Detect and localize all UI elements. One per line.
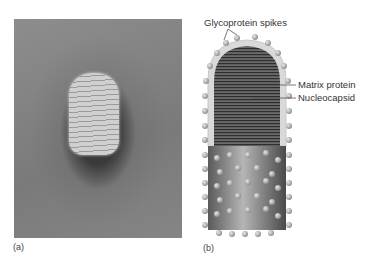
virion-diagram xyxy=(0,0,380,263)
callout-nucleocapsid: Nucleocapsid xyxy=(298,92,355,103)
panel-b-label: (b) xyxy=(203,243,214,253)
callout-matrix-protein: Matrix protein xyxy=(298,79,356,90)
callout-glycoprotein-spikes: Glycoprotein spikes xyxy=(204,17,287,28)
